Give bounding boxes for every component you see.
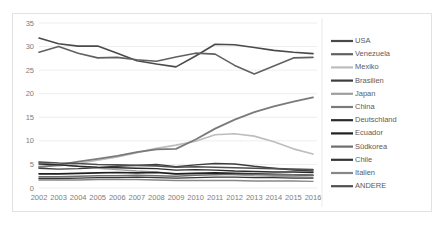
series-line-chile [39,177,313,178]
y-tick-label: 15 [26,113,34,122]
series-lines [39,38,313,181]
x-tick-label: 2009 [168,193,185,202]
y-tick-label: 30 [26,42,34,51]
legend-label-brasilien: Brasilien [355,76,384,85]
y-tick-label: 5 [30,160,34,169]
legend-label-venezuela: Venezuela [355,49,391,58]
legend-label-chile: Chile [355,155,372,164]
x-tick-label: 2004 [70,193,87,202]
series-line-usa [39,38,313,67]
x-tick-label: 2003 [50,193,67,202]
series-line-italien [39,180,313,182]
legend-label-china: China [355,102,375,111]
y-tick-label: 25 [26,66,34,75]
x-tick-label: 2005 [89,193,106,202]
x-tick-label: 2010 [187,193,204,202]
x-tick-label: 2006 [109,193,126,202]
x-tick-label: 2016 [305,193,322,202]
x-tick-label: 2008 [148,193,165,202]
legend-label-deutschland: Deutschland [355,115,397,124]
x-tick-label: 2012 [226,193,243,202]
x-tick-label: 2011 [207,193,223,202]
x-tick-label: 2007 [129,193,146,202]
legend-label-mexiko: Mexiko [355,62,379,71]
legend-label-südkorea: Südkorea [355,142,388,151]
x-tick-label: 2002 [31,193,48,202]
x-tick-label: 2013 [246,193,263,202]
series-line-china [39,97,313,167]
y-tick-label: 35 [26,19,34,28]
y-tick-label: 20 [26,89,34,98]
y-tick-label: 10 [26,136,34,145]
x-tick-label: 2015 [285,193,302,202]
legend-label-ecuador: Ecuador [355,128,383,137]
line-chart: 05101520253035 2002200320042005200620072… [13,14,431,211]
legend-label-andere: ANDERE [355,181,386,190]
legend-label-usa: USA [355,36,370,45]
chart-frame: 05101520253035 2002200320042005200620072… [12,13,432,212]
legend-label-italien: Italien [355,168,375,177]
legend: USAVenezuelaMexikoBrasilienJapanChinaDeu… [331,36,397,190]
y-tick-label: 0 [30,184,34,193]
legend-label-japan: Japan [355,89,375,98]
x-tick-label: 2014 [266,193,283,202]
y-axis-tick-labels: 05101520253035 [26,19,34,193]
x-axis-tick-labels: 2002200320042005200620072008200920102011… [31,193,322,202]
